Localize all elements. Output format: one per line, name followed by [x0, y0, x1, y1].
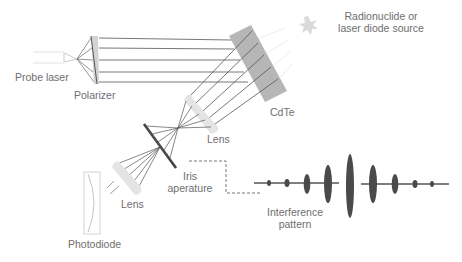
- parallel-beams: [99, 38, 248, 82]
- iris-label-line1: Iris: [160, 170, 220, 182]
- source-label-line1: Radionuclide or: [326, 10, 436, 22]
- optical-setup-diagram: [0, 0, 462, 262]
- lens-lower: [112, 162, 141, 195]
- source-label: Radionuclide or laser diode source: [326, 10, 436, 34]
- interference-label: Interference pattern: [260, 206, 330, 230]
- cdte-label: CdTe: [270, 106, 295, 118]
- probe-laser-label: Probe laser: [15, 71, 69, 83]
- polarizer-label: Polarizer: [74, 89, 115, 101]
- iris-label-line2: aperature: [160, 182, 220, 194]
- lens-lower-label: Lens: [121, 198, 144, 210]
- lens-upper-label: Lens: [207, 133, 230, 145]
- interference-label-line1: Interference: [260, 206, 330, 218]
- interference-label-line2: pattern: [260, 218, 330, 230]
- source-label-line2: laser diode source: [326, 22, 436, 34]
- photodiode: [84, 172, 100, 234]
- iris-label: Iris aperature: [160, 170, 220, 194]
- output-rays: [107, 181, 119, 194]
- source-star-icon: [299, 16, 318, 35]
- cdte-crystal: [229, 25, 287, 102]
- photodiode-label: Photodiode: [68, 238, 121, 250]
- diverging-rays: [77, 38, 94, 82]
- probe-laser: [33, 52, 77, 63]
